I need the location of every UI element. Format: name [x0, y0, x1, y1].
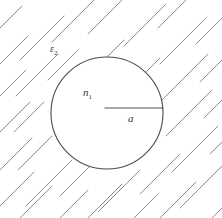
- n-subscript: 1: [89, 93, 93, 101]
- diagram-svg: ε2 n1 a: [0, 0, 222, 218]
- dielectric-sphere-outline: [51, 57, 163, 169]
- epsilon-subscript: 2: [54, 49, 58, 57]
- figure-canvas: ε2 n1 a: [0, 0, 222, 218]
- radius-label: a: [128, 112, 134, 124]
